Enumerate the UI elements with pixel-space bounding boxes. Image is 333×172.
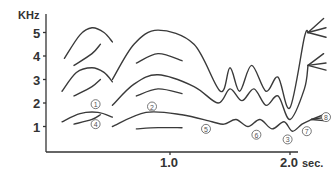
axes bbox=[46, 14, 298, 152]
marker-label: 5 bbox=[204, 126, 208, 133]
formant-segment2-sub2 bbox=[136, 89, 182, 96]
annotation-marker: 2 bbox=[148, 102, 157, 111]
x-ticks: 1.02.0 bbox=[160, 152, 298, 170]
y-ticks: 12345 bbox=[33, 26, 46, 135]
formant-curves bbox=[62, 18, 326, 131]
formant-fan-branch bbox=[308, 33, 326, 38]
formant-segment1-sub5 bbox=[74, 44, 100, 65]
x-tick-label: 2.0 bbox=[280, 155, 298, 170]
marker-label: 3 bbox=[286, 136, 290, 143]
marker-label: 6 bbox=[254, 132, 258, 139]
annotation-marker: 3 bbox=[283, 135, 292, 144]
marker-label: 2 bbox=[150, 104, 154, 111]
y-tick-label: 3 bbox=[33, 73, 40, 88]
formant-segment2-sub4 bbox=[136, 54, 182, 63]
annotation-marker: 4 bbox=[91, 120, 100, 129]
annotation-marker: 8 bbox=[322, 113, 331, 122]
y-tick-label: 1 bbox=[33, 120, 40, 135]
formant-chart: KHz 12345 1.02.0 sec. 14256378 bbox=[0, 0, 333, 172]
formant-segment1-sub3 bbox=[74, 80, 100, 96]
annotation-marker: 5 bbox=[202, 124, 211, 133]
marker-label: 1 bbox=[94, 101, 98, 108]
y-tick-label: 2 bbox=[33, 96, 40, 111]
y-tick-label: 4 bbox=[33, 49, 41, 64]
formant-fan-branch bbox=[308, 65, 326, 70]
formant-fan-branch bbox=[312, 119, 324, 120]
marker-label: 7 bbox=[305, 128, 309, 135]
annotation-marker: 1 bbox=[91, 100, 100, 109]
annotation-marker: 6 bbox=[252, 130, 261, 139]
formant-segment1-F2 bbox=[62, 68, 112, 92]
marker-label: 4 bbox=[94, 121, 98, 128]
x-axis-label: sec. bbox=[302, 157, 323, 169]
marker-label: 8 bbox=[324, 114, 328, 121]
formant-segment1-F3 bbox=[64, 28, 112, 59]
annotation-marker: 7 bbox=[302, 127, 311, 136]
formant-segment2-sub5 bbox=[136, 128, 182, 129]
x-tick-label: 1.0 bbox=[160, 155, 178, 170]
y-axis-label: KHz bbox=[18, 9, 40, 21]
y-tick-label: 5 bbox=[33, 26, 40, 41]
